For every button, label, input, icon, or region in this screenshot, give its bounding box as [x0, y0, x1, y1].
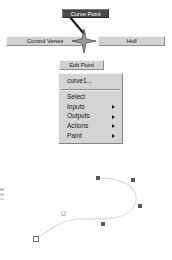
- menu-item-outputs[interactable]: Outputs: [59, 112, 122, 122]
- menu-item-label: Outputs: [67, 112, 90, 119]
- context-menu-items: SelectInputsOutputsActionsPaint: [59, 93, 122, 141]
- left-edge-artifact: [0, 188, 4, 200]
- edit-point-markers: [34, 237, 39, 242]
- control-vertex-marker[interactable]: [131, 178, 135, 182]
- hull-button[interactable]: Hull: [98, 36, 165, 46]
- menu-item-label: Inputs: [67, 103, 85, 110]
- context-menu-title: curve1...: [59, 76, 122, 88]
- u-direction-label: U: [61, 210, 66, 217]
- curve-viewport[interactable]: [0, 160, 172, 260]
- edit-point-button[interactable]: Edit Point: [59, 60, 104, 70]
- menu-item-actions[interactable]: Actions: [59, 122, 122, 132]
- control-vertex-marker[interactable]: [138, 204, 142, 208]
- menu-item-paint[interactable]: Paint: [59, 131, 122, 141]
- chevron-right-icon: [112, 115, 115, 119]
- curve-point-label[interactable]: Curve Point: [62, 9, 109, 18]
- control-vertex-marker[interactable]: [101, 222, 105, 226]
- edit-point-marker[interactable]: [34, 237, 39, 242]
- menu-divider: [61, 89, 120, 91]
- menu-item-label: Paint: [67, 132, 82, 139]
- menu-item-inputs[interactable]: Inputs: [59, 102, 122, 112]
- chevron-right-icon: [112, 105, 115, 109]
- context-menu: curve1... SelectInputsOutputsActionsPain…: [58, 73, 123, 144]
- menu-item-select[interactable]: Select: [59, 93, 122, 103]
- nurbs-curve[interactable]: [38, 178, 136, 238]
- screenshot-root: Curve Point Control Vertex Hull Edit Poi…: [0, 0, 172, 260]
- control-vertex-marker[interactable]: [96, 176, 100, 180]
- menu-item-label: Actions: [67, 122, 88, 129]
- chevron-right-icon: [112, 134, 115, 138]
- menu-item-label: Select: [67, 93, 85, 100]
- chevron-right-icon: [112, 124, 115, 128]
- control-vertex-button[interactable]: Control Vertex: [6, 36, 84, 46]
